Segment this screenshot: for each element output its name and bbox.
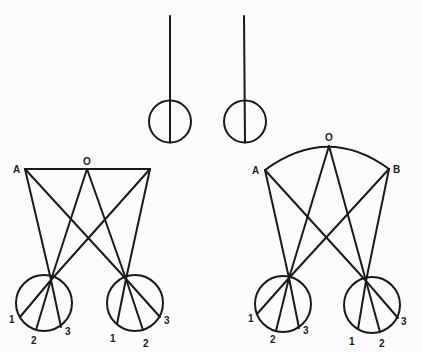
label-2: 2 — [270, 334, 276, 345]
label-2: 2 — [31, 335, 37, 346]
label-2: 2 — [143, 338, 149, 349]
label-O: O — [83, 156, 91, 167]
label-3: 3 — [303, 325, 309, 336]
label-1: 1 — [349, 336, 355, 347]
label-B: B — [393, 164, 400, 175]
label-3: 3 — [65, 326, 71, 337]
label-3: 3 — [401, 316, 407, 327]
label-1: 1 — [9, 314, 15, 325]
label-3: 3 — [164, 315, 170, 326]
label-1: 1 — [248, 313, 254, 324]
label-1: 1 — [110, 333, 116, 344]
binocular-vision-figure: A O 1 2 3 1 2 3 A O B — [0, 0, 422, 352]
right-sight-line — [244, 16, 245, 143]
label-O: O — [325, 132, 333, 143]
bleed-through-text — [0, 0, 422, 352]
label-A: A — [13, 164, 20, 175]
label-A: A — [252, 165, 259, 176]
label-2: 2 — [379, 338, 385, 349]
